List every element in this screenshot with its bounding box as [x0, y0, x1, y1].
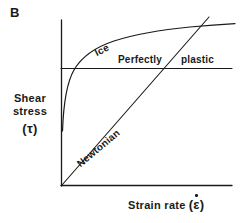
y-axis-title: Shear stress (τ) [2, 92, 58, 137]
ice-curve [63, 24, 236, 131]
y-axis-title-line1: Shear [14, 92, 46, 104]
figure-panel-b: B Shear stress (τ) Strain rate(ε) Ice Ne… [0, 0, 244, 223]
perfectly-plastic-label-word1: Perfectly [118, 54, 162, 66]
x-axis-title-text: Strain rate [128, 199, 186, 211]
shear-stress-symbol: (τ) [2, 122, 58, 137]
x-axis-title: Strain rate(ε) [128, 198, 204, 213]
strain-rate-symbol: (ε) [189, 197, 205, 212]
epsilon-dot-glyph: ε [193, 197, 199, 212]
panel-label: B [10, 6, 20, 21]
y-axis-title-line2: stress [13, 105, 47, 117]
perfectly-plastic-label-word2: plastic [181, 54, 214, 66]
paren-close: ) [200, 197, 205, 212]
